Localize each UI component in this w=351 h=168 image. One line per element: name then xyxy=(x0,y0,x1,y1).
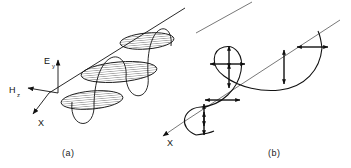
svg-text:H: H xyxy=(9,85,16,95)
label-x-a: X xyxy=(38,118,44,128)
figure-root: E y H z X xyxy=(0,0,351,168)
axis-x-b xyxy=(163,2,340,136)
caption-panel-b: (b) xyxy=(268,148,281,158)
label-x-b: X xyxy=(167,138,173,148)
panel-a: E y H z X xyxy=(9,8,185,128)
svg-text:X: X xyxy=(167,138,173,148)
svg-text:X: X xyxy=(38,118,44,128)
svg-text:y: y xyxy=(52,63,55,69)
label-ey: E y xyxy=(44,56,55,69)
panel-b: X xyxy=(163,2,340,148)
label-hz: H z xyxy=(9,85,20,98)
svg-text:E: E xyxy=(44,56,50,66)
em-wave-figure: E y H z X xyxy=(0,0,351,168)
caption-panel-a: (a) xyxy=(62,148,75,158)
h-field-lobes xyxy=(60,31,174,112)
svg-text:z: z xyxy=(17,92,20,98)
